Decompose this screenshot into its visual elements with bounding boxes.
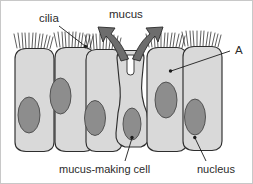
- label-mucus: mucus: [109, 8, 143, 20]
- nucleus: [155, 82, 177, 118]
- cilia-tuft: [14, 33, 53, 49]
- label-a: A: [235, 44, 243, 56]
- nucleus: [50, 78, 71, 114]
- cilia-leader-dot: [84, 45, 87, 48]
- nucleus: [185, 99, 206, 135]
- nucleus: [85, 101, 106, 136]
- epithelium-diagram: cilia mucus A mucus-making cell nucleus: [1, 1, 253, 184]
- cell-group: [15, 47, 222, 152]
- epithelium-figure: cilia mucus A mucus-making cell nucleus: [0, 0, 253, 184]
- cilia-tuft: [182, 31, 221, 47]
- nucleus: [123, 108, 141, 140]
- nucleus-leader-dot: [193, 136, 196, 139]
- epithelial-cell: [183, 47, 222, 151]
- mucus-making-cell-leader-dot: [130, 136, 133, 139]
- a-leader-dot: [169, 69, 172, 72]
- nucleus: [18, 97, 40, 133]
- label-nucleus: nucleus: [197, 163, 235, 175]
- label-mucus-making-cell: mucus-making cell: [59, 163, 150, 175]
- label-cilia: cilia: [39, 12, 59, 24]
